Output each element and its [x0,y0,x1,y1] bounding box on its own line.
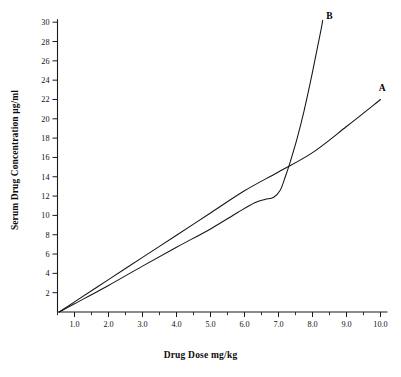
x-tick-label: 6.0 [239,320,249,329]
x-tick-label: 9.0 [341,320,351,329]
y-tick-label: 14 [41,173,49,182]
x-axis-title: Drug Dose mg/kg [0,350,401,360]
data-curve-a [59,99,380,312]
curve-label-a: A [379,83,386,93]
y-tick-label: 24 [41,76,49,85]
y-tick-label: 10 [41,211,49,220]
x-tick-label: 1.0 [69,320,79,329]
y-tick-label: 18 [41,134,49,143]
x-tick-label: 10.0 [373,320,387,329]
curve-label-b: B [326,11,333,21]
x-tick-label: 3.0 [137,320,147,329]
x-tick-label: 8.0 [307,320,317,329]
y-tick-label: 20 [41,115,49,124]
data-curve-b [59,20,323,312]
y-tick-label: 16 [41,153,49,162]
y-tick-label: 28 [41,38,49,47]
y-tick-label: 4 [45,269,49,278]
y-tick-label: 2 [45,289,49,298]
x-tick-label: 4.0 [171,320,181,329]
y-tick-label: 30 [41,18,49,27]
y-axis: 24681012141618202224262830 [41,18,57,312]
y-tick-label: 8 [45,231,49,240]
x-tick-label: 5.0 [205,320,215,329]
y-tick-label: 12 [41,192,49,201]
series-labels-group: AB [326,11,385,92]
x-axis: 1.02.03.04.05.06.07.08.09.010.0 [58,312,388,329]
x-tick-label: 7.0 [273,320,283,329]
chart-plot-area: 1.02.03.04.05.06.07.08.09.010.0 24681012… [0,0,401,377]
x-tick-label: 2.0 [103,320,113,329]
data-series-group [59,20,380,312]
y-tick-label: 22 [41,95,49,104]
y-tick-label: 26 [41,57,49,66]
x-axis-title-text: Drug Dose mg/kg [164,350,238,360]
y-tick-label: 6 [45,250,49,259]
drug-dose-response-figure: Serum Drug Concentration µg/ml 1.02.03.0… [0,0,401,377]
